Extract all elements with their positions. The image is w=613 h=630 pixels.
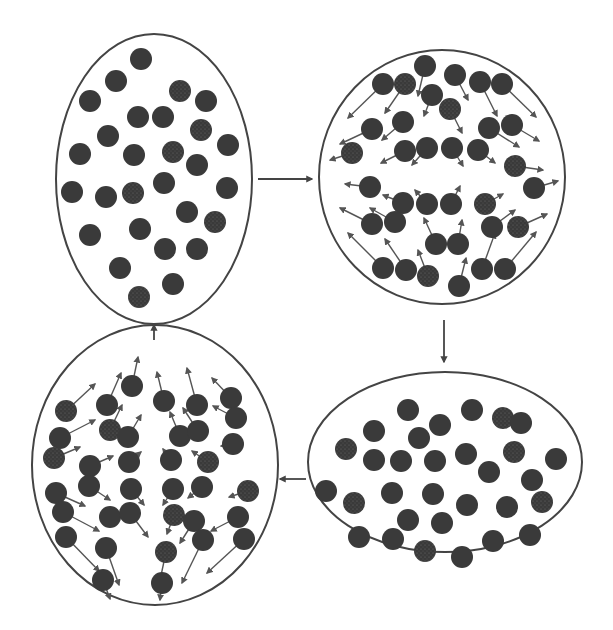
particle (49, 427, 71, 449)
particle (361, 213, 383, 235)
particle (482, 530, 504, 552)
particle (397, 509, 419, 531)
particle (190, 119, 212, 141)
particle (160, 449, 182, 471)
stage-bottom-right (308, 372, 582, 568)
particle (444, 64, 466, 86)
particle (359, 176, 381, 198)
particle (123, 144, 145, 166)
particle (478, 117, 500, 139)
particle (469, 71, 491, 93)
particle (99, 506, 121, 528)
particle (395, 259, 417, 281)
particle (192, 529, 214, 551)
particle (363, 420, 385, 442)
particle (153, 390, 175, 412)
particle (507, 216, 529, 238)
particle (118, 451, 140, 473)
particle (494, 258, 516, 280)
particle (381, 482, 403, 504)
particle (79, 90, 101, 112)
particle (97, 125, 119, 147)
particle (109, 257, 131, 279)
particle (217, 134, 239, 156)
particle (163, 504, 185, 526)
particle (348, 526, 370, 548)
particle (78, 475, 100, 497)
particle (448, 275, 470, 297)
particle (440, 193, 462, 215)
particle (451, 546, 473, 568)
particle (169, 80, 191, 102)
particle (467, 139, 489, 161)
particle (545, 448, 567, 470)
particle (491, 73, 513, 95)
diagram-canvas (0, 0, 613, 630)
particle (414, 540, 436, 562)
particle (127, 106, 149, 128)
particle (195, 90, 217, 112)
particle (519, 524, 541, 546)
particle (187, 420, 209, 442)
particle (55, 400, 77, 422)
particle (341, 142, 363, 164)
particle (447, 233, 469, 255)
particle (204, 211, 226, 233)
particle (45, 482, 67, 504)
particle (343, 492, 365, 514)
particle (416, 137, 438, 159)
particle (120, 478, 142, 500)
particle (121, 375, 143, 397)
particle (119, 502, 141, 524)
particle (501, 114, 523, 136)
particle (186, 394, 208, 416)
particle (335, 438, 357, 460)
particle (105, 70, 127, 92)
particle (233, 528, 255, 550)
particle (455, 443, 477, 465)
particle (384, 211, 406, 233)
particle (186, 238, 208, 260)
particle (471, 258, 493, 280)
particle (92, 569, 114, 591)
particle (461, 399, 483, 421)
particle (372, 73, 394, 95)
particle (151, 572, 173, 594)
particle (191, 476, 213, 498)
particle (372, 257, 394, 279)
particle (315, 480, 337, 502)
particle (504, 155, 526, 177)
particle (176, 201, 198, 223)
particle (408, 427, 430, 449)
particle (421, 84, 443, 106)
particle (237, 480, 259, 502)
particle (52, 501, 74, 523)
particle (392, 111, 414, 133)
particle (416, 193, 438, 215)
stages-layer (32, 34, 582, 605)
particle (439, 98, 461, 120)
particle (397, 399, 419, 421)
particle (222, 433, 244, 455)
particle (162, 478, 184, 500)
particle (79, 224, 101, 246)
particle (162, 141, 184, 163)
particle (152, 106, 174, 128)
particle (394, 73, 416, 95)
particle (425, 233, 447, 255)
particle (95, 186, 117, 208)
particle (361, 118, 383, 140)
stage-top-left (56, 34, 252, 324)
particle (186, 154, 208, 176)
particle (96, 394, 118, 416)
particle (197, 451, 219, 473)
particle (122, 182, 144, 204)
particle-cycle-diagram (0, 0, 613, 630)
cell-outline (32, 325, 278, 605)
particle (162, 273, 184, 295)
particle (216, 177, 238, 199)
particle (474, 193, 496, 215)
particle (422, 483, 444, 505)
particle (496, 496, 518, 518)
particle (183, 510, 205, 532)
